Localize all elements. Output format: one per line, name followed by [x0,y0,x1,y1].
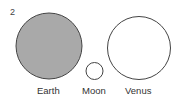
planet-size-diagram [0,0,183,97]
moon-circle [86,63,103,80]
moon-label: Moon [82,85,106,96]
venus-circle [108,17,171,80]
earth-label: Earth [37,85,60,96]
venus-label: Venus [125,85,151,96]
earth-circle [16,13,82,79]
